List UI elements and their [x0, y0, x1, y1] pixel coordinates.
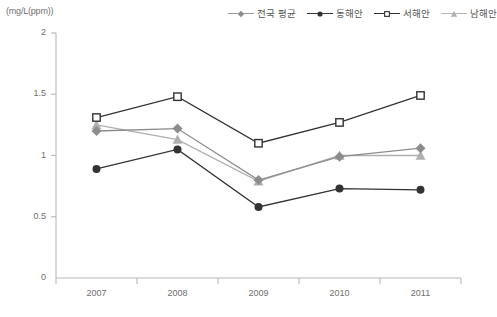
x-axis-tick-label: 2007 — [67, 288, 127, 298]
data-point-marker — [336, 119, 343, 126]
data-point-marker — [93, 165, 101, 173]
series-line — [97, 95, 421, 143]
data-point-marker — [416, 143, 426, 153]
data-point-marker — [174, 145, 182, 153]
x-axis-tick-label: 2010 — [310, 288, 370, 298]
data-point-marker — [174, 93, 181, 100]
y-axis-tick-label: 1.5 — [20, 88, 46, 98]
y-axis-tick-label: 0 — [20, 272, 46, 282]
data-point-marker — [336, 185, 344, 193]
data-point-marker — [335, 152, 345, 162]
series-3 — [93, 92, 424, 147]
x-axis-tick-label: 2009 — [229, 288, 289, 298]
y-axis-tick-label: 0.5 — [20, 211, 46, 221]
data-point-marker — [173, 124, 183, 134]
x-axis-tick-label: 2011 — [391, 288, 451, 298]
x-axis-tick-label: 2008 — [148, 288, 208, 298]
y-axis-tick-label: 1 — [20, 150, 46, 160]
data-point-marker — [255, 140, 262, 147]
data-point-marker — [417, 92, 424, 99]
y-axis-tick-label: 2 — [20, 27, 46, 37]
data-point-marker — [93, 114, 100, 121]
data-point-marker — [417, 186, 425, 194]
series-line — [97, 129, 421, 180]
data-point-marker — [255, 203, 263, 211]
